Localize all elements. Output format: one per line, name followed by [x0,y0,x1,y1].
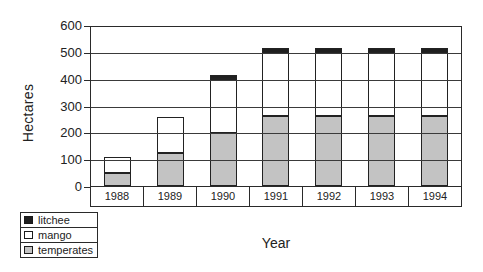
bar-1990-mango [210,79,237,133]
gridline-500 [91,53,461,54]
bar-1991-temperates [262,116,289,186]
legend-item-mango: mango [20,227,98,243]
y-tick-label-300: 300 [38,99,82,115]
x-category-label-1994: 1994 [409,187,461,206]
bar-1989-temperates [157,153,184,186]
legend-item-temperates: temperates [20,242,98,258]
x-category-label-1989: 1989 [144,187,197,206]
bar-1988-temperates [104,173,131,186]
gridline-400 [91,80,461,81]
x-category-label-1988: 1988 [91,187,144,206]
y-tick-label-100: 100 [38,152,82,168]
legend-swatch-temperates [24,246,33,254]
legend-swatch-litchee [24,216,33,224]
x-axis-category-strip: 1988198919901991199219931994 [90,187,462,207]
x-category-label-1992: 1992 [303,187,356,206]
bar-1990-litchee [210,75,237,79]
y-tick-label-500: 500 [38,45,82,61]
legend-swatch-mango [24,231,33,239]
x-category-label-1993: 1993 [356,187,409,206]
bar-1994-temperates [421,116,448,186]
gridline-200 [91,133,461,134]
x-category-label-1990: 1990 [197,187,250,206]
plot-area [90,26,462,187]
stacked-bar-chart: Hectares 0100200300400500600 19881989199… [0,0,483,272]
gridline-300 [91,107,461,108]
legend-label-litchee: litchee [38,213,70,227]
x-axis-title: Year [90,235,462,251]
y-tick-label-400: 400 [38,72,82,88]
y-tick-label-600: 600 [38,18,82,34]
legend-label-temperates: temperates [38,243,93,257]
legend-label-mango: mango [38,228,72,242]
legend: litcheemangotemperates [20,212,98,258]
bar-1989-mango [157,117,184,153]
y-tick-label-200: 200 [38,125,82,141]
x-category-label-1991: 1991 [250,187,303,206]
legend-item-litchee: litchee [20,212,98,228]
y-axis-title: Hectares [20,58,36,168]
y-tick-label-0: 0 [38,179,82,195]
gridline-100 [91,160,461,161]
bar-1993-temperates [368,116,395,186]
bar-1992-temperates [315,116,342,186]
